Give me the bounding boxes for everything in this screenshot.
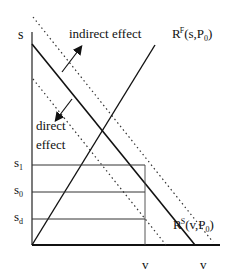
rf-curve-label: RF(s,P0) — [172, 27, 212, 43]
direct-label-line2: effect — [36, 138, 65, 151]
level-label-s1: s1 — [14, 156, 23, 172]
rf-args: (s,P — [184, 26, 204, 41]
rf-close: ) — [208, 26, 212, 41]
s0-sub: 0 — [19, 190, 23, 199]
supply-demand-diagram: s indirect effect RF(s,P0) direct effect… — [0, 0, 234, 279]
x-axis-label-v1: v — [142, 258, 149, 271]
sd-sub: d — [19, 217, 23, 226]
direct-effect-arrow — [56, 99, 72, 120]
y-axis-label: s — [18, 28, 23, 42]
rs-curve-label: RS(v,P0) — [173, 218, 214, 234]
direct-label-line1: direct — [36, 119, 66, 132]
rs-args: (v,P — [185, 217, 205, 232]
indirect-effect-arrow — [62, 47, 81, 72]
level-label-sd: sd — [14, 210, 23, 226]
x-axis-label-v2: v — [200, 258, 207, 271]
indirect-effect-label: indirect effect — [69, 27, 141, 40]
shifted-curve-lower-dotted — [33, 79, 166, 245]
s1-sub: 1 — [19, 163, 23, 172]
rs-close: ) — [210, 217, 214, 232]
level-label-s0: s0 — [14, 183, 23, 199]
